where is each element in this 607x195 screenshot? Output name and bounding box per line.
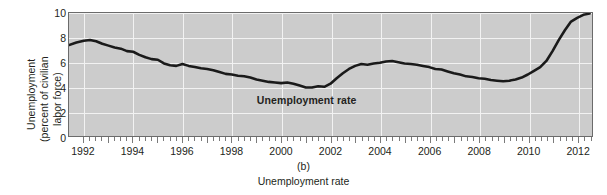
x-tick-mark	[114, 137, 115, 141]
x-tick-mark	[318, 137, 319, 141]
x-tick-mark	[225, 137, 226, 141]
x-tick-mark	[213, 137, 214, 141]
x-tick-mark	[238, 137, 239, 141]
x-tick-mark	[250, 137, 251, 141]
x-tick-mark	[510, 137, 511, 141]
y-tick-8: 8	[44, 33, 66, 43]
figure-caption: Unemployment rate	[0, 175, 607, 187]
x-tick-mark	[578, 137, 579, 143]
x-tick-mark	[300, 137, 301, 141]
x-tick-mark	[362, 137, 363, 141]
x-tick-label-2012: 2012	[566, 145, 589, 157]
x-tick-mark	[269, 137, 270, 141]
x-tick-mark	[349, 137, 350, 141]
x-tick-label-2000: 2000	[269, 145, 292, 157]
x-tick-mark	[170, 137, 171, 141]
x-tick-mark	[498, 137, 499, 141]
x-tick-mark	[83, 137, 84, 143]
x-tick-mark	[275, 137, 276, 141]
x-tick-label-1992: 1992	[71, 145, 94, 157]
x-tick-mark	[95, 137, 96, 141]
x-tick-mark	[293, 137, 294, 141]
x-tick-mark	[504, 137, 505, 143]
x-tick-mark	[244, 137, 245, 141]
x-tick-mark	[380, 137, 381, 143]
x-tick-label-1994: 1994	[121, 145, 144, 157]
x-tick-mark	[584, 137, 585, 141]
x-tick-mark	[163, 137, 164, 141]
x-tick-mark	[442, 137, 443, 141]
x-tick-label-2010: 2010	[517, 145, 540, 157]
x-tick-mark	[591, 137, 592, 141]
x-tick-mark	[392, 137, 393, 141]
x-tick-mark	[448, 137, 449, 141]
x-tick-label-1998: 1998	[220, 145, 243, 157]
x-tick-mark	[324, 137, 325, 141]
y-tick-10: 10	[44, 8, 66, 18]
x-tick-mark	[572, 137, 573, 141]
x-tick-label-2002: 2002	[319, 145, 342, 157]
x-tick-mark	[386, 137, 387, 141]
x-tick-mark	[262, 137, 263, 141]
x-tick-mark	[157, 137, 158, 143]
x-tick-mark	[120, 137, 121, 141]
x-tick-mark	[516, 137, 517, 141]
x-tick-mark	[306, 137, 307, 143]
x-tick-mark	[126, 137, 127, 141]
y-tick-4: 4	[44, 83, 66, 93]
x-tick-mark	[547, 137, 548, 141]
unemployment-rate-figure: Unemployment (percent of civilian labor …	[0, 0, 607, 195]
x-tick-mark	[467, 137, 468, 141]
x-tick-mark	[207, 137, 208, 143]
x-tick-mark	[454, 137, 455, 143]
x-tick-mark	[485, 137, 486, 141]
x-tick-mark	[411, 137, 412, 141]
x-tick-mark	[355, 137, 356, 143]
x-tick-mark	[529, 137, 530, 143]
x-tick-mark	[108, 137, 109, 143]
x-tick-label-1996: 1996	[170, 145, 193, 157]
x-tick-mark	[566, 137, 567, 141]
x-tick-mark	[461, 137, 462, 141]
x-tick-mark	[101, 137, 102, 141]
unemployment-rate-line	[69, 13, 592, 136]
x-tick-mark	[423, 137, 424, 141]
x-tick-mark	[473, 137, 474, 141]
x-tick-label-2008: 2008	[467, 145, 490, 157]
x-tick-mark	[430, 137, 431, 143]
x-tick-label-2004: 2004	[368, 145, 391, 157]
x-tick-mark	[287, 137, 288, 141]
x-tick-mark	[182, 137, 183, 143]
y-tick-2: 2	[44, 108, 66, 118]
x-tick-mark	[151, 137, 152, 141]
x-tick-mark	[145, 137, 146, 141]
x-tick-mark	[256, 137, 257, 143]
x-tick-mark	[535, 137, 536, 141]
x-tick-mark	[417, 137, 418, 141]
x-tick-mark	[219, 137, 220, 141]
x-tick-mark	[188, 137, 189, 141]
x-tick-mark	[560, 137, 561, 141]
series-annotation-label: Unemployment rate	[257, 94, 357, 106]
x-tick-mark	[201, 137, 202, 141]
x-tick-mark	[368, 137, 369, 141]
y-tick-0: 0	[44, 133, 66, 143]
x-tick-mark	[479, 137, 480, 143]
y-tick-6: 6	[44, 58, 66, 68]
x-tick-mark	[343, 137, 344, 141]
y-axis-title-line-1: Unemployment	[25, 59, 37, 130]
x-tick-mark	[139, 137, 140, 141]
x-tick-mark	[337, 137, 338, 141]
x-tick-mark	[231, 137, 232, 143]
x-tick-mark	[436, 137, 437, 141]
x-tick-mark	[89, 137, 90, 141]
x-axis-tick-marks	[68, 137, 593, 144]
x-tick-label-2006: 2006	[418, 145, 441, 157]
x-axis-tick-labels: 1992199419961998200020022004200620082010…	[68, 145, 593, 159]
panel-letter: (b)	[0, 160, 607, 172]
x-tick-mark	[405, 137, 406, 143]
x-tick-mark	[331, 137, 332, 143]
x-tick-mark	[553, 137, 554, 143]
x-tick-mark	[492, 137, 493, 141]
x-tick-mark	[194, 137, 195, 141]
